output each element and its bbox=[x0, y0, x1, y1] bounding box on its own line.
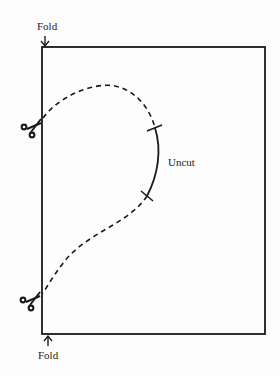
tick-mark-bottom bbox=[141, 191, 153, 201]
tick-mark-top bbox=[147, 125, 162, 131]
arrow-down-icon bbox=[41, 36, 49, 46]
cut-line-lower bbox=[43, 196, 147, 293]
scissors-icon bbox=[21, 119, 41, 138]
cut-line-upper bbox=[43, 85, 155, 128]
scissors-icon bbox=[20, 292, 40, 311]
bottom-fold-label: Fold bbox=[38, 349, 58, 361]
uncut-line bbox=[147, 128, 158, 196]
uncut-label: Uncut bbox=[168, 156, 195, 168]
paper-diagram bbox=[0, 0, 280, 376]
arrow-up-icon bbox=[44, 336, 52, 346]
paper-rectangle bbox=[42, 47, 265, 334]
top-fold-label: Fold bbox=[37, 20, 57, 32]
